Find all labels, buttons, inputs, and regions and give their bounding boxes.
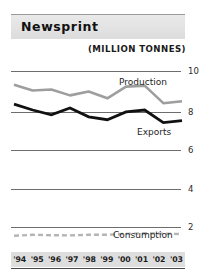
x-tick-label: '99	[98, 255, 115, 264]
line-exports	[14, 104, 182, 123]
x-tick-label: '01	[133, 255, 150, 264]
x-tick-label: '02	[150, 255, 167, 264]
x-axis-labels: '94'95'96'97'98'99'00'01'02'03	[11, 252, 185, 267]
x-tick-label: '00	[115, 255, 132, 264]
plot-area: 10 8 6 4 2 Production Exports Consumptio…	[0, 0, 206, 280]
x-tick-label: '98	[81, 255, 98, 264]
series-label-consumption: Consumption	[113, 230, 173, 240]
x-axis-rule	[11, 268, 185, 269]
x-tick-label: '03	[168, 255, 185, 264]
x-tick-label: '95	[28, 255, 45, 264]
line-production	[14, 85, 182, 104]
x-tick-label: '96	[46, 255, 63, 264]
x-tick-label: '97	[63, 255, 80, 264]
series-label-exports: Exports	[137, 127, 171, 137]
series-lines	[0, 0, 206, 280]
series-label-production: Production	[119, 77, 167, 87]
chart-figure: Newsprint (MILLION TONNES) 10 8 6 4 2 Pr…	[0, 0, 206, 280]
x-tick-label: '94	[11, 255, 28, 264]
